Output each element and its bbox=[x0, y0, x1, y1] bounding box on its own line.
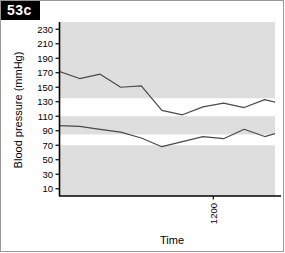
chart-plot-area bbox=[57, 22, 285, 196]
y-tick-label: 70 bbox=[42, 140, 53, 151]
y-tick-label: 150 bbox=[37, 82, 53, 93]
y-tick-label: 210 bbox=[37, 38, 53, 49]
x-axis-tick-labels: 120015001800210000000300060009001200 bbox=[208, 203, 285, 224]
blood-pressure-chart: 2302101901701501301109070503010 12001500… bbox=[0, 0, 285, 253]
y-tick-label: 10 bbox=[42, 183, 53, 194]
y-tick-label: 190 bbox=[37, 53, 53, 64]
x-tick-label: 1200 bbox=[208, 203, 219, 224]
y-tick-label: 230 bbox=[37, 24, 53, 35]
y-tick-label: 130 bbox=[37, 96, 53, 107]
figure-panel: 53c 2302101901701501301109070503010 1200… bbox=[0, 0, 285, 253]
y-axis-ticks bbox=[56, 29, 60, 189]
y-tick-label: 110 bbox=[38, 111, 53, 122]
y-tick-label: 50 bbox=[42, 154, 53, 165]
y-axis-tick-labels: 2302101901701501301109070503010 bbox=[37, 24, 53, 195]
y-axis-title: Blood pressure (mmHg) bbox=[12, 52, 24, 169]
y-tick-label: 90 bbox=[42, 125, 53, 136]
y-tick-label: 170 bbox=[37, 67, 53, 78]
y-tick-label: 30 bbox=[42, 169, 53, 180]
x-axis-title: Time bbox=[160, 234, 184, 246]
